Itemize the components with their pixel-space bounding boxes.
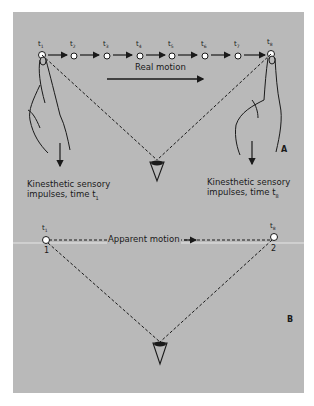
caption-text: impulses, time t bbox=[207, 187, 276, 197]
caption-line: Kinesthetic sensory bbox=[207, 177, 290, 187]
caption-line: impulses, time t8 bbox=[207, 187, 290, 201]
panel-letter-b: B bbox=[287, 315, 293, 324]
subscript: 1 bbox=[45, 228, 48, 233]
right-caption: Kinesthetic sensory impulses, time t8 bbox=[207, 177, 290, 201]
time-label-t4: t4 bbox=[136, 40, 142, 49]
caption-text: impulses, time t bbox=[27, 189, 96, 199]
time-label-t5: t5 bbox=[168, 40, 174, 49]
subscript: 3 bbox=[106, 44, 109, 49]
subscript: 8 bbox=[270, 42, 273, 47]
caption-line: impulses, time t1 bbox=[27, 189, 110, 203]
time-label-t8: t8 bbox=[267, 38, 273, 47]
time-label-b-t8: t8 bbox=[270, 222, 276, 231]
point-1 bbox=[43, 237, 50, 244]
sight-lines-b bbox=[48, 240, 272, 342]
point-2 bbox=[271, 234, 278, 241]
real-motion-label: Real motion bbox=[135, 62, 186, 72]
time-label-t3: t3 bbox=[103, 40, 109, 49]
point-2-label: 2 bbox=[271, 244, 276, 254]
left-hand-icon bbox=[28, 57, 70, 153]
eye-icon bbox=[150, 161, 164, 182]
subscript: 8 bbox=[273, 226, 276, 231]
time-label-t6: t6 bbox=[201, 40, 207, 49]
eye-icon bbox=[153, 342, 167, 365]
subscript: 7 bbox=[237, 44, 240, 49]
diagram-drawing bbox=[0, 0, 314, 406]
time-label-t7: t7 bbox=[234, 40, 240, 49]
panel-letter-a: A bbox=[281, 145, 287, 154]
subscript: 6 bbox=[204, 44, 207, 49]
subscript: 5 bbox=[171, 44, 174, 49]
subscript: 1 bbox=[96, 195, 99, 201]
real-motion-sequence bbox=[39, 51, 275, 60]
subscript: 2 bbox=[73, 44, 76, 49]
subscript: 1 bbox=[41, 44, 44, 49]
right-hand-icon bbox=[235, 56, 281, 155]
time-label-t2: t2 bbox=[70, 40, 76, 49]
point-1-label: 1 bbox=[44, 246, 49, 256]
subscript: 4 bbox=[139, 44, 142, 49]
time-label-t1: t1 bbox=[38, 40, 44, 49]
apparent-motion-label: Apparent motion bbox=[107, 234, 181, 244]
caption-line: Kinesthetic sensory bbox=[27, 179, 110, 189]
subscript: 8 bbox=[276, 193, 279, 199]
time-label-b-t1: t1 bbox=[42, 224, 48, 233]
left-caption: Kinesthetic sensory impulses, time t1 bbox=[27, 179, 110, 203]
